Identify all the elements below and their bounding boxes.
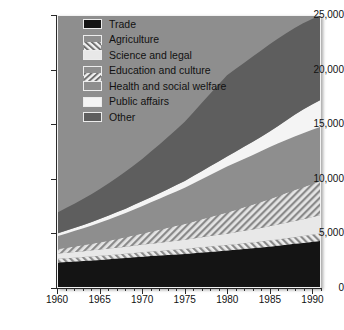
- legend-label: Education and culture: [109, 65, 211, 76]
- stacked-area-chart: TradeAgricultureScience and legalEducati…: [0, 0, 344, 330]
- legend-item-other[interactable]: Other: [83, 110, 226, 124]
- y-axis-line: [56, 15, 57, 289]
- y-tick-mark: [51, 233, 57, 234]
- x-tick-label: 1960: [37, 294, 77, 305]
- legend-label: Agriculture: [109, 34, 159, 45]
- x-tick-mark-minor: [253, 288, 254, 291]
- x-tick-mark-minor: [159, 288, 160, 291]
- legend-swatch-solid-gray: [83, 81, 102, 91]
- x-tick-mark-minor: [168, 288, 169, 291]
- legend-label: Public affairs: [109, 96, 169, 107]
- x-tick-mark-minor: [202, 288, 203, 291]
- x-tick-label: 1970: [122, 294, 162, 305]
- legend-swatch-solid-black: [83, 19, 102, 29]
- legend-swatch-hatch-backward: [83, 66, 102, 76]
- legend-item-trade[interactable]: Trade: [83, 17, 226, 31]
- legend-item-health-and-social-welfare[interactable]: Health and social welfare: [83, 79, 226, 93]
- x-tick-mark-minor: [91, 288, 92, 291]
- x-tick-mark-minor: [244, 288, 245, 291]
- x-tick-mark-minor: [295, 288, 296, 291]
- y-tick-label: 20,000: [296, 65, 344, 75]
- x-tick-mark-minor: [176, 288, 177, 291]
- x-tick-mark-minor: [125, 288, 126, 291]
- legend-label: Other: [109, 112, 135, 123]
- x-tick-label: 1980: [207, 294, 247, 305]
- x-tick-mark-minor: [108, 288, 109, 291]
- x-tick-mark-minor: [151, 288, 152, 291]
- x-axis-line: [56, 288, 322, 289]
- y-tick-label: 10,000: [296, 174, 344, 184]
- legend-swatch-solid-white: [83, 97, 102, 107]
- x-tick-mark-minor: [117, 288, 118, 291]
- legend-item-public-affairs[interactable]: Public affairs: [83, 95, 226, 109]
- x-tick-mark-minor: [193, 288, 194, 291]
- y-tick-label: 25,000: [296, 10, 344, 20]
- x-tick-mark-minor: [74, 288, 75, 291]
- x-tick-mark-minor: [304, 288, 305, 291]
- y-tick-mark: [51, 70, 57, 71]
- x-tick-mark-minor: [261, 288, 262, 291]
- x-tick-mark-minor: [236, 288, 237, 291]
- x-tick-label: 1990: [292, 294, 332, 305]
- legend-label: Science and legal: [109, 50, 192, 61]
- x-tick-label: 1965: [80, 294, 120, 305]
- legend-label: Health and social welfare: [109, 81, 226, 92]
- y-tick-label: 15,000: [296, 119, 344, 129]
- x-tick-mark-minor: [278, 288, 279, 291]
- x-tick-label: 1985: [250, 294, 290, 305]
- x-tick-mark-minor: [66, 288, 67, 291]
- y-tick-mark: [51, 179, 57, 180]
- legend-label: Trade: [109, 19, 136, 30]
- legend-item-agriculture[interactable]: Agriculture: [83, 33, 226, 47]
- y-tick-mark: [51, 15, 57, 16]
- legend-swatch-solid-dark-gray: [83, 112, 102, 122]
- x-tick-mark-minor: [287, 288, 288, 291]
- legend-item-science-and-legal[interactable]: Science and legal: [83, 48, 226, 62]
- x-tick-mark-minor: [210, 288, 211, 291]
- legend-swatch-solid-light: [83, 50, 102, 60]
- legend-item-education-and-culture[interactable]: Education and culture: [83, 64, 226, 78]
- x-tick-label: 1975: [165, 294, 205, 305]
- y-tick-mark: [51, 124, 57, 125]
- chart-legend: TradeAgricultureScience and legalEducati…: [83, 17, 226, 126]
- x-tick-mark-minor: [134, 288, 135, 291]
- x-tick-mark-minor: [83, 288, 84, 291]
- x-tick-mark-minor: [219, 288, 220, 291]
- y-tick-label: 5,000: [296, 228, 344, 238]
- legend-swatch-hatch-forward: [83, 35, 102, 45]
- x-tick-mark-minor: [321, 288, 322, 291]
